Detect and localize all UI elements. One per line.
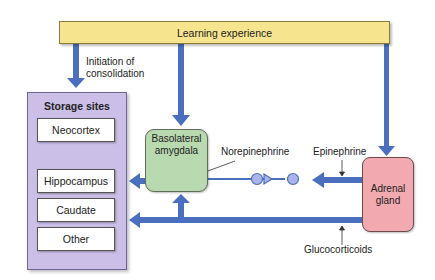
epinephrine-label: Epinephrine <box>313 146 366 158</box>
site-neocortex: Neocortex <box>37 118 115 142</box>
adrenal-input-arrowhead <box>378 146 395 156</box>
amygdala-input-arrowhead <box>172 115 190 126</box>
glucocorticoids-label: Glucocorticoids <box>304 244 372 256</box>
site-other: Other <box>37 227 115 251</box>
storage-sites-title: Storage sites <box>28 100 126 112</box>
basolateral-amygdala-box: Basolateral amygdala <box>145 129 208 192</box>
initiation-label: Initiation of consolidation <box>86 56 144 80</box>
consolidation-arrow-shaft <box>73 44 79 80</box>
storage-sites-panel: Storage sites Neocortex Hippocampus Caud… <box>27 92 127 270</box>
norepinephrine-label: Norepinephrine <box>221 146 289 158</box>
site-hippocampus: Hippocampus <box>37 169 115 193</box>
site-caudate: Caudate <box>37 198 115 222</box>
learning-experience-banner: Learning experience <box>59 21 390 44</box>
learning-experience-label: Learning experience <box>177 27 272 39</box>
adrenal-gland-box: Adrenal gland <box>362 157 414 232</box>
consolidation-arrowhead <box>67 78 85 88</box>
